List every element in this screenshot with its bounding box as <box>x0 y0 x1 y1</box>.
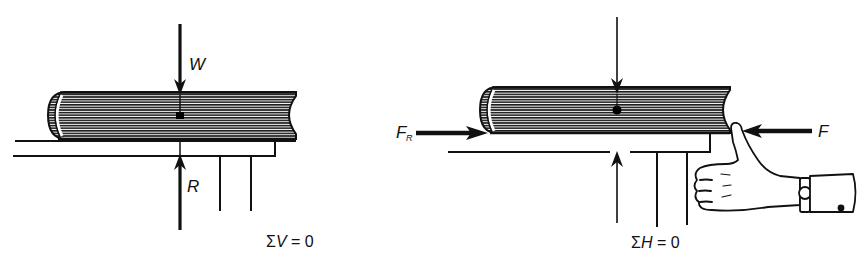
book-left <box>48 92 296 139</box>
friction-arrow <box>416 126 488 140</box>
push-force-label: F <box>818 122 830 141</box>
book-right <box>480 87 730 133</box>
hand-icon <box>695 123 856 212</box>
right-panel: F R F ΣH = 0 <box>396 17 856 251</box>
table-right <box>448 133 711 227</box>
table-left <box>13 141 296 211</box>
push-arrow <box>742 124 812 138</box>
friction-label-subscript: R <box>406 133 413 143</box>
reaction-arrow <box>174 141 186 230</box>
reaction-label: R <box>187 177 199 196</box>
left-panel: W R ΣV = 0 <box>13 24 314 250</box>
reaction-arrow-right <box>611 151 623 223</box>
weight-label: W <box>189 55 207 74</box>
vertical-equilibrium-equation: ΣV = 0 <box>266 233 314 250</box>
horizontal-equilibrium-equation: ΣH = 0 <box>631 234 680 251</box>
equilibrium-diagram: W R ΣV = 0 <box>0 0 863 271</box>
center-of-gravity-dot <box>176 112 184 119</box>
